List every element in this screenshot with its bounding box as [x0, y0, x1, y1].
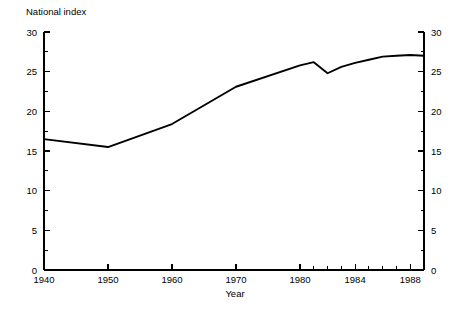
y-tick-label-left: 15	[26, 146, 37, 157]
x-tick-label: 1960	[161, 274, 182, 285]
data-series-line	[44, 55, 424, 147]
y-tick-label-left: 20	[26, 106, 37, 117]
x-tick-label: 1980	[289, 274, 310, 285]
chart-container: National index 051015202530 051015202530…	[0, 0, 470, 316]
x-tick-label: 1950	[97, 274, 118, 285]
y-tick-label-right: 25	[431, 66, 442, 77]
x-tick-label: 1940	[33, 274, 54, 285]
y-ticks-left	[44, 32, 50, 270]
y-tick-label-right: 15	[431, 146, 442, 157]
x-tick-label: 1984	[345, 274, 366, 285]
x-tick-label: 1970	[225, 274, 246, 285]
x-tick-label: 1988	[400, 274, 421, 285]
y-tick-label-left: 30	[26, 27, 37, 38]
x-axis-title: Year	[0, 288, 470, 299]
y-ticks-right	[418, 32, 424, 270]
line-chart-plot: 051015202530 051015202530 19401950196019…	[0, 0, 470, 316]
x-tick-labels: 1940195019601970198019841988	[33, 274, 420, 285]
y-tick-label-right: 5	[431, 225, 436, 236]
y-tick-label-left: 5	[32, 225, 37, 236]
y-tick-label-right: 20	[431, 106, 442, 117]
axis-group	[44, 32, 424, 270]
y-tick-label-right: 0	[431, 265, 436, 276]
y-tick-label-left: 25	[26, 66, 37, 77]
y-tick-label-left: 10	[26, 185, 37, 196]
y-tick-label-right: 30	[431, 27, 442, 38]
y-tick-labels-right: 051015202530	[431, 27, 442, 276]
y-tick-label-right: 10	[431, 185, 442, 196]
y-tick-labels-left: 051015202530	[26, 27, 37, 276]
x-ticks	[44, 264, 424, 270]
